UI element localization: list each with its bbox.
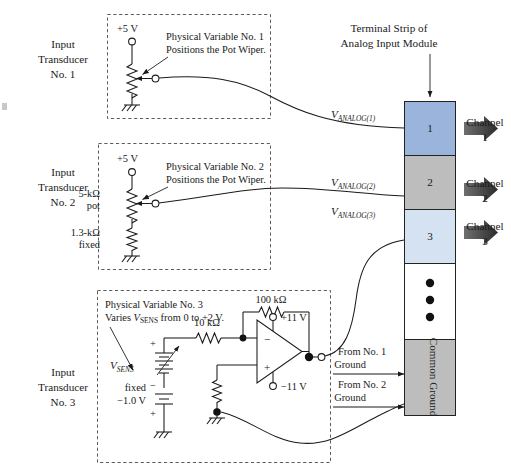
transducer-no2-supply-terminal xyxy=(129,169,136,176)
terminal-cell-2-label: 2 xyxy=(427,176,433,188)
transducer-no2-potentiometer xyxy=(127,189,137,228)
opamp-negative-supply-label: −11 V xyxy=(281,381,307,392)
ellipsis-dot-1 xyxy=(426,279,434,287)
ground-return-1-line2: Ground xyxy=(334,359,367,370)
v-analog-3-label: VANALOG(3) xyxy=(331,205,376,220)
fixed-bias-minus-sign: − xyxy=(150,380,156,391)
fixed-bias-source: − + fixed −1.0 V xyxy=(117,380,173,432)
transducer-no2-supply-label: +5 V xyxy=(117,153,138,164)
transducer-no1-label-line3: No. 1 xyxy=(51,68,76,80)
transducer-no1-note-pointer xyxy=(143,57,169,75)
fixed-bias-label-line1: fixed xyxy=(125,382,147,393)
channel-1-text-line1: Channel xyxy=(466,116,503,128)
transducer-no3-ground-symbol xyxy=(154,432,172,438)
ground-return-2-line2: Ground xyxy=(334,392,367,403)
transducer-no1-supply-terminal xyxy=(129,38,136,45)
channel-2-text-line1: Channel xyxy=(466,177,503,189)
analog-input-wiring-diagram: Input Transducer No. 1 +5 V Phys xyxy=(0,0,511,476)
channel-3-text-line2: 3 xyxy=(482,235,488,247)
transducer-no2-label-line3: No. 2 xyxy=(51,196,76,208)
v-analog-2-label: VANALOG(2) xyxy=(331,176,376,191)
transducer-no2-pot-value-line2: pot xyxy=(87,200,100,211)
transducer-no2-note-line1: Physical Variable No. 2 xyxy=(166,161,264,172)
opamp-output-terminal xyxy=(318,354,325,361)
terminal-cell-1-label: 1 xyxy=(427,122,433,134)
channel-2-text-line2: 2 xyxy=(482,192,488,204)
ellipsis-dot-3 xyxy=(426,313,434,321)
transducer-no1-note-line1: Physical Variable No. 1 xyxy=(166,31,264,42)
transducer-no3-signal-wire xyxy=(325,240,404,356)
ground-return-1-line1: From No. 1 xyxy=(338,346,386,357)
fixed-bias-label-line2: −1.0 V xyxy=(117,395,146,406)
transducer-no2-fixed-value-line2: fixed xyxy=(79,239,101,250)
terminal-cell-3-label: 3 xyxy=(427,230,433,242)
diagram-canvas: Input Transducer No. 1 +5 V Phys xyxy=(0,0,511,476)
transducer-no2-fixed-resistor xyxy=(127,228,137,256)
v-analog-1-label: VANALOG(1) xyxy=(331,108,376,123)
common-ground-label: Common Ground xyxy=(428,338,440,417)
channel-text-group: Channel 1 Channel 2 Channel 3 xyxy=(466,116,503,247)
opamp-noninverting-input-label: + xyxy=(264,361,270,373)
channel-3-text-line1: Channel xyxy=(466,220,503,232)
transducer-no1-wiper-terminal xyxy=(152,75,159,82)
transducer-no3-label-line1: Input xyxy=(51,366,76,378)
transducer-no3-ground-wire xyxy=(221,404,404,443)
operational-amplifier: − + +11 V −11 V xyxy=(257,312,307,392)
noninverting-bias-resistor xyxy=(213,380,222,412)
opamp-output-node xyxy=(305,353,313,361)
transducer-no3-label-line2: Transducer xyxy=(38,381,88,393)
transducer-no1-supply-label: +5 V xyxy=(117,23,138,34)
transducer-no3-note-line1: Physical Variable No. 3 xyxy=(105,299,203,310)
opamp-inverting-input-label: − xyxy=(264,333,270,345)
scan-artifact xyxy=(2,103,7,110)
transducer-no1-potentiometer xyxy=(127,64,137,105)
v-sens-plus-sign: + xyxy=(150,338,156,349)
transducer-no1-group: Input Transducer No. 1 +5 V Phys xyxy=(38,15,404,129)
transducer-no1-note-line2: Positions the Pot Wiper. xyxy=(166,44,266,55)
transducer-no2-group: Input Transducer No. 2 +5 V 5-kΩ pot 1.3… xyxy=(38,144,404,270)
transducer-no2-label-line1: Input xyxy=(51,166,76,178)
opamp-positive-supply-terminal xyxy=(270,314,277,321)
transducer-no1-label-line2: Transducer xyxy=(38,53,88,65)
input-resistor-10k xyxy=(196,333,243,343)
opamp-negative-supply-terminal xyxy=(270,383,277,390)
input-resistor-label: 10 kΩ xyxy=(194,317,220,328)
ground-return-labels-group: From No. 1 Ground From No. 2 Ground xyxy=(333,346,404,407)
transducer-no2-fixed-value-line1: 1.3-kΩ xyxy=(71,227,101,238)
v-sens-label: VSENS xyxy=(110,359,134,374)
ellipsis-dot-2 xyxy=(426,296,434,304)
opamp-positive-supply-label: +11 V xyxy=(281,312,307,323)
transducer-no2-note-pointer xyxy=(143,187,169,200)
fixed-bias-plus-sign: + xyxy=(150,408,156,419)
transducer-no2-note-line2: Positions the Pot Wiper. xyxy=(166,174,266,185)
ground-return-2-line1: From No. 2 xyxy=(338,379,386,390)
transducer-no3-label-line3: No. 3 xyxy=(51,396,76,408)
transducer-no1-ground-symbol xyxy=(122,105,140,111)
terminal-strip-caption-line1: Terminal Strip of xyxy=(351,22,428,34)
transducer-no2-pot-value-line1: 5-kΩ xyxy=(78,188,100,199)
transducer-no2-wiper-terminal xyxy=(152,200,159,207)
transducer-no1-label-line1: Input xyxy=(51,38,76,50)
feedback-resistor-label: 100 kΩ xyxy=(255,294,286,305)
transducer-no2-ground-symbol xyxy=(122,256,140,262)
channel-1-text-line2: 1 xyxy=(482,131,488,143)
terminal-strip-caption-line2: Analog Input Module xyxy=(341,37,438,49)
